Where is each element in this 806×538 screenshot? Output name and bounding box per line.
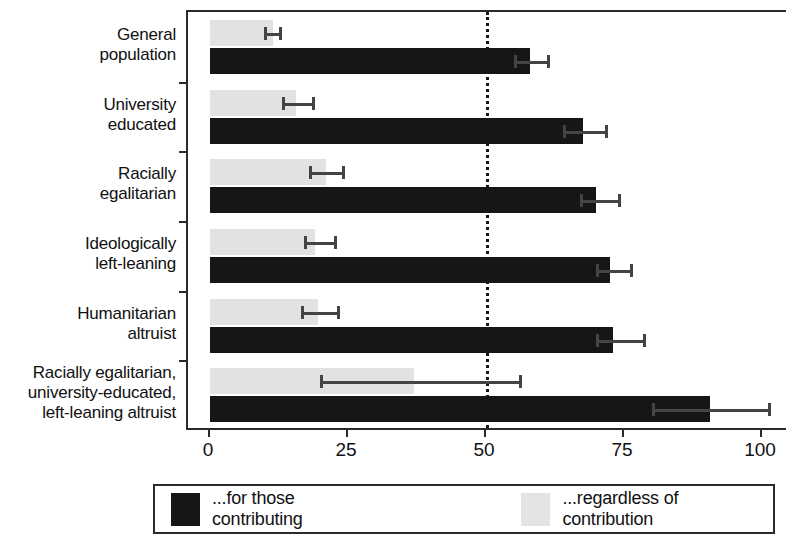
category-tick-2 bbox=[179, 151, 188, 153]
x-tick-label-50: 50 bbox=[473, 439, 494, 461]
error-bar-dark-5 bbox=[652, 409, 768, 412]
x-tick-label-25: 25 bbox=[335, 439, 356, 461]
category-label-0: Generalpopulation bbox=[0, 25, 176, 65]
error-bar-dark-1 bbox=[563, 131, 604, 134]
category-label-line: left-leaning altruist bbox=[0, 403, 176, 423]
category-label-line: population bbox=[0, 45, 176, 65]
plot-area bbox=[186, 10, 786, 428]
category-tick-3 bbox=[179, 221, 188, 223]
category-label-line: educated bbox=[0, 115, 176, 135]
bar-dark-2 bbox=[210, 187, 596, 213]
category-label-line: Humanitarian bbox=[0, 304, 176, 324]
category-label-2: Raciallyegalitarian bbox=[0, 164, 176, 204]
error-bar-dark-2 bbox=[580, 200, 619, 203]
legend: ...for those contributing ...regardless … bbox=[153, 484, 775, 534]
error-cap-low-light-1 bbox=[282, 97, 285, 110]
bar-light-3 bbox=[210, 229, 315, 255]
x-axis-line bbox=[186, 428, 786, 430]
error-bar-light-2 bbox=[309, 172, 342, 175]
error-cap-high-dark-1 bbox=[605, 125, 608, 138]
legend-label-dark: ...for those contributing bbox=[212, 488, 389, 530]
error-cap-high-dark-4 bbox=[643, 334, 646, 347]
error-cap-low-light-0 bbox=[264, 27, 267, 40]
error-cap-low-dark-1 bbox=[563, 125, 566, 138]
legend-swatch-light-icon bbox=[521, 493, 550, 526]
category-label-5: Racially egalitarian,university-educated… bbox=[0, 363, 176, 423]
x-tick-0 bbox=[208, 428, 210, 437]
error-cap-low-light-5 bbox=[320, 375, 323, 388]
reference-line-50 bbox=[486, 12, 489, 428]
category-tick-5 bbox=[179, 360, 188, 362]
category-label-line: altruist bbox=[0, 324, 176, 344]
error-bar-dark-0 bbox=[514, 61, 547, 64]
error-bar-light-4 bbox=[301, 312, 337, 315]
plot-inner bbox=[188, 12, 786, 428]
chart-figure: GeneralpopulationUniversityeducatedRacia… bbox=[0, 0, 806, 538]
category-label-1: Universityeducated bbox=[0, 95, 176, 135]
error-cap-low-dark-5 bbox=[652, 403, 655, 416]
category-label-line: Racially bbox=[0, 164, 176, 184]
category-label-line: University bbox=[0, 95, 176, 115]
category-label-line: Racially egalitarian, bbox=[0, 363, 176, 383]
category-label-3: Ideologicallyleft-leaning bbox=[0, 234, 176, 274]
x-tick-label-75: 75 bbox=[611, 439, 632, 461]
x-tick-50 bbox=[484, 428, 486, 437]
error-cap-low-dark-3 bbox=[596, 264, 599, 277]
error-cap-high-dark-5 bbox=[768, 403, 771, 416]
x-tick-75 bbox=[622, 428, 624, 437]
error-cap-high-light-4 bbox=[337, 306, 340, 319]
error-cap-high-dark-2 bbox=[618, 194, 621, 207]
category-tick-4 bbox=[179, 291, 188, 293]
x-axis: 0255075100 bbox=[186, 428, 786, 478]
x-tick-25 bbox=[346, 428, 348, 437]
legend-label-light: ...regardless of contribution bbox=[562, 488, 773, 530]
x-tick-100 bbox=[760, 428, 762, 437]
error-cap-high-dark-3 bbox=[630, 264, 633, 277]
error-cap-high-light-5 bbox=[519, 375, 522, 388]
bar-dark-3 bbox=[210, 257, 610, 283]
error-bar-light-1 bbox=[282, 103, 312, 106]
category-label-line: General bbox=[0, 25, 176, 45]
x-tick-label-100: 100 bbox=[744, 439, 776, 461]
error-cap-low-dark-2 bbox=[580, 194, 583, 207]
category-label-4: Humanitarianaltruist bbox=[0, 304, 176, 344]
error-cap-low-dark-0 bbox=[514, 55, 517, 68]
bar-dark-5 bbox=[210, 396, 710, 422]
category-label-line: egalitarian bbox=[0, 184, 176, 204]
category-axis-labels: GeneralpopulationUniversityeducatedRacia… bbox=[0, 10, 186, 428]
category-label-line: university-educated, bbox=[0, 383, 176, 403]
category-tick-1 bbox=[179, 82, 188, 84]
error-cap-high-light-3 bbox=[334, 236, 337, 249]
error-cap-low-light-2 bbox=[309, 166, 312, 179]
error-cap-high-dark-0 bbox=[547, 55, 550, 68]
error-bar-light-3 bbox=[304, 242, 334, 245]
error-bar-dark-3 bbox=[596, 270, 629, 273]
error-bar-dark-4 bbox=[596, 340, 643, 343]
error-cap-low-light-3 bbox=[304, 236, 307, 249]
bar-dark-0 bbox=[210, 48, 530, 74]
error-bar-light-5 bbox=[320, 381, 519, 384]
bar-dark-1 bbox=[210, 118, 583, 144]
x-tick-label-0: 0 bbox=[203, 439, 214, 461]
legend-item-regardless-of-contribution: ...regardless of contribution bbox=[521, 488, 773, 530]
category-label-line: left-leaning bbox=[0, 254, 176, 274]
error-cap-high-light-1 bbox=[312, 97, 315, 110]
legend-item-for-those-contributing: ...for those contributing bbox=[171, 488, 389, 530]
error-cap-low-light-4 bbox=[301, 306, 304, 319]
legend-swatch-dark-icon bbox=[171, 493, 200, 526]
error-cap-low-dark-4 bbox=[596, 334, 599, 347]
category-label-line: Ideologically bbox=[0, 234, 176, 254]
error-cap-high-light-2 bbox=[342, 166, 345, 179]
error-cap-high-light-0 bbox=[279, 27, 282, 40]
bar-dark-4 bbox=[210, 327, 613, 353]
